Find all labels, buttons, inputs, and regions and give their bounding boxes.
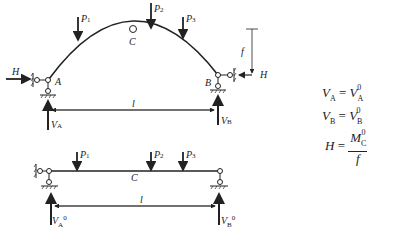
svg-text:C: C — [131, 172, 138, 183]
three-hinged-arch: C P1 P2 P3 A H — [6, 3, 268, 130]
svg-text:VA0: VA0 — [52, 214, 67, 229]
svg-text:P1: P1 — [80, 13, 91, 24]
svg-text:P1: P1 — [79, 149, 90, 160]
svg-text:VB: VB — [221, 115, 232, 126]
thrust-h-right: H — [239, 69, 268, 80]
thrust-h-left: H — [6, 66, 30, 79]
svg-text:l: l — [132, 98, 135, 109]
svg-text:P3: P3 — [185, 13, 196, 24]
beam-reaction-vb0: VB0 — [219, 194, 236, 229]
svg-text:H: H — [11, 66, 20, 77]
arch-load-p3: P3 — [183, 13, 196, 38]
svg-text:H: H — [259, 69, 268, 80]
arch-load-p1: P1 — [78, 13, 91, 40]
beam-load-p3: P3 — [183, 149, 196, 170]
hinge-c-label: C — [129, 36, 136, 47]
beam-load-p2: P2 — [151, 149, 164, 170]
reaction-va: VA — [48, 101, 62, 130]
svg-text:B: B — [205, 77, 211, 88]
beam-load-p1: P1 — [77, 149, 90, 170]
support-b: B — [205, 68, 236, 93]
svg-text:A: A — [54, 76, 62, 87]
svg-text:l: l — [140, 194, 143, 205]
svg-text:f: f — [241, 46, 245, 57]
equation-vb: VB = VB0 — [322, 108, 360, 126]
beam-support-left — [34, 164, 58, 189]
beam-reaction-va0: VA0 — [51, 194, 67, 229]
equation-va: VA = VA0 — [322, 85, 361, 103]
svg-text:P2: P2 — [153, 3, 164, 14]
span-dimension-l: l — [52, 98, 214, 110]
support-a: A — [31, 73, 62, 98]
crown-hinge-c — [130, 26, 137, 33]
reaction-vb: VB — [218, 96, 232, 126]
svg-text:VB0: VB0 — [221, 214, 236, 229]
equation-h: H = MC0 f — [325, 128, 367, 166]
svg-text:VA: VA — [51, 119, 62, 130]
svg-text:P2: P2 — [153, 149, 164, 160]
svg-text:P3: P3 — [185, 149, 196, 160]
beam-span-dimension-l: l — [55, 194, 215, 206]
fraction: MC0 f — [348, 128, 367, 166]
equivalent-simple-beam: C P1 P2 P3 — [34, 149, 236, 229]
rise-dimension-f: f — [241, 29, 258, 73]
